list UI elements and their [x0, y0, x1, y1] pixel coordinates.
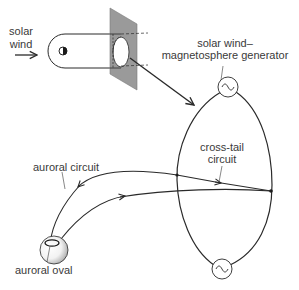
generator-label-leader	[221, 66, 223, 80]
generator-loop	[177, 92, 272, 265]
auroral-circuit-label: auroral circuit	[33, 162, 99, 173]
earth-half-shaded-icon	[59, 47, 67, 55]
generator-label-line2: magnetosphere generator	[155, 50, 295, 61]
generator-label-line1: solar wind–	[155, 38, 295, 49]
ac-source-icon	[212, 259, 232, 279]
auroral-circuit-upper	[50, 171, 177, 244]
cross-tail-label-line2: circuit	[190, 154, 254, 165]
zoom-transition-arrow	[130, 58, 194, 105]
auroral-oval-label: auroral oval	[15, 265, 72, 276]
earth-sphere-icon	[40, 236, 68, 264]
cross-tail-label-leader	[219, 166, 222, 182]
solar-wind-label-line1: solar	[6, 26, 36, 37]
auroral-circuit-lower	[61, 189, 271, 239]
cross-tail-label-line1: cross-tail	[190, 142, 254, 153]
cross-section-plane	[110, 8, 148, 90]
solar-wind-label: solar wind	[6, 26, 36, 50]
generator-label: solar wind– magnetosphere generator	[155, 38, 295, 61]
solar-wind-label-line2: wind	[6, 39, 36, 50]
auroral-circuit-label-leader	[62, 172, 65, 189]
cross-tail-label: cross-tail circuit	[190, 142, 254, 165]
